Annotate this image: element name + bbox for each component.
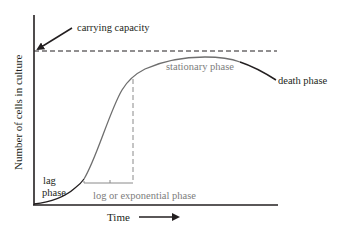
- log-phase-bracket: [84, 180, 133, 183]
- log-phase-label: log or exponential phase: [93, 190, 196, 201]
- growth-curve-diagram: carrying capacity stationary phase death…: [0, 0, 345, 231]
- carrying-capacity-label: carrying capacity: [77, 22, 150, 33]
- lag-phase-label-line2: phase: [42, 187, 66, 198]
- x-axis-label: Time: [107, 211, 130, 223]
- lag-phase-label-line1: lag: [43, 175, 57, 186]
- curve-death-segment: [240, 62, 276, 80]
- y-axis-label: Number of cells in culture: [12, 54, 24, 170]
- stationary-phase-label: stationary phase: [166, 61, 234, 72]
- death-phase-label: death phase: [278, 75, 328, 86]
- curve-log-stationary-segment: [84, 57, 240, 179]
- carrying-capacity-arrow-icon: [38, 28, 72, 49]
